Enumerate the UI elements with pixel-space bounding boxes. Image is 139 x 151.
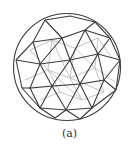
front-edges — [14, 14, 121, 121]
geodesic-sphere-diagram — [0, 0, 139, 130]
figure: (a) — [0, 0, 139, 151]
figure-caption: (a) — [0, 127, 139, 140]
